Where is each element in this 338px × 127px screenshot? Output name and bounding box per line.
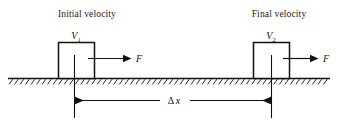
ground-hatch-tick (235, 79, 239, 84)
ground-hatch-tick (64, 79, 68, 84)
ground-hatch-tick (31, 79, 35, 84)
ground-hatch-tick (86, 79, 90, 84)
ground-hatch-tick (108, 79, 112, 84)
velocity-symbol-v2: V2 (266, 30, 275, 43)
force-label-initial: F (135, 53, 143, 64)
ground-hatch-tick (119, 79, 123, 84)
ground-hatch-tick (15, 79, 19, 84)
initial-velocity-caption: Initial velocity (58, 9, 116, 19)
force-label-final: F (322, 53, 330, 64)
ground-hatch-tick (279, 79, 283, 84)
ground-hatch-tick (219, 79, 223, 84)
ground-hatch-tick (213, 79, 217, 84)
ground-hatch-tick (92, 79, 96, 84)
ground-hatch-tick (263, 79, 267, 84)
ground-hatch-tick (323, 79, 327, 84)
ground-hatch-tick (9, 79, 13, 84)
ground-hatch-tick (197, 79, 201, 84)
hatched-ground-surface (8, 79, 330, 85)
ground-hatch-tick (103, 79, 107, 84)
force-arrow-head-final (310, 55, 319, 62)
ground-hatch-tick (224, 79, 228, 84)
ground-hatch-tick (318, 79, 322, 84)
ground-hatch-tick (163, 79, 167, 84)
ground-hatch-tick (158, 79, 162, 84)
ground-hatch-tick (296, 79, 300, 84)
ground-hatch-tick (125, 79, 129, 84)
final-velocity-caption: Final velocity (252, 9, 307, 19)
ground-hatch-tick (59, 79, 63, 84)
ground-hatch-tick (274, 79, 278, 84)
ground-hatch-tick (191, 79, 195, 84)
ground-hatch-tick (70, 79, 74, 84)
ground-hatch-tick (53, 79, 57, 84)
ground-hatch-tick (208, 79, 212, 84)
ground-hatch-tick (290, 79, 294, 84)
ground-hatch-tick (42, 79, 46, 84)
ground-hatch-tick (97, 79, 101, 84)
ground-hatch-tick (180, 79, 184, 84)
ground-hatch-tick (141, 79, 145, 84)
ground-hatch-tick (114, 79, 118, 84)
ground-hatch-tick (175, 79, 179, 84)
ground-hatch-tick (48, 79, 52, 84)
ground-hatch-tick (230, 79, 234, 84)
ground-hatch-tick (202, 79, 206, 84)
ground-hatch-tick (20, 79, 24, 84)
ground-hatch-tick (186, 79, 190, 84)
ground-hatch-tick (75, 79, 79, 84)
velocity-symbol-v2-subscript: 2 (272, 36, 275, 43)
ground-hatch-tick (81, 79, 85, 84)
ground-hatch-tick (257, 79, 261, 84)
displacement-label-delta: Δ (168, 95, 175, 106)
diagram-canvas: Initial velocity V1 F Final velocity V2 … (0, 0, 338, 127)
displacement-dimension: Δx (75, 95, 271, 106)
ground-hatch-tick (147, 79, 151, 84)
ground-hatch-tick (301, 79, 305, 84)
ground-hatch-tick (136, 79, 140, 84)
ground-hatch-tick (26, 79, 30, 84)
ground-hatch-tick (241, 79, 245, 84)
ground-hatch-tick (312, 79, 316, 84)
initial-state-group: Initial velocity V1 F (58, 9, 143, 118)
ground-hatch-tick (252, 79, 256, 84)
dimension-arrow-head-left (75, 97, 84, 104)
ground-hatch-tick (37, 79, 41, 84)
block-initial (59, 43, 95, 79)
ground-hatch-tick (246, 79, 250, 84)
ground-hatch-marks (9, 79, 327, 84)
displacement-label: Δx (168, 95, 181, 106)
displacement-label-variable: x (175, 95, 181, 106)
ground-hatch-tick (307, 79, 311, 84)
ground-hatch-tick (169, 79, 173, 84)
final-state-group: Final velocity V2 F (252, 9, 330, 118)
velocity-symbol-v1: V1 (71, 30, 80, 43)
dimension-arrow-head-right (262, 97, 271, 104)
ground-hatch-tick (285, 79, 289, 84)
ground-hatch-tick (152, 79, 156, 84)
force-arrow-head-initial (123, 55, 132, 62)
physics-diagram: Initial velocity V1 F Final velocity V2 … (0, 0, 338, 127)
ground-hatch-tick (130, 79, 134, 84)
velocity-symbol-v1-subscript: 1 (77, 36, 80, 43)
